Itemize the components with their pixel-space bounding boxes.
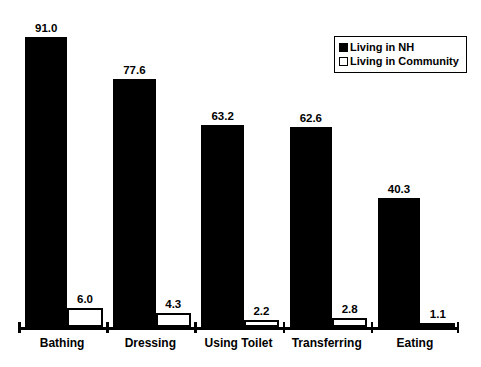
x-axis-category-labels: Bathing Dressing Using Toilet Transferri… — [18, 336, 459, 350]
x-axis-tick — [194, 322, 197, 333]
bar-value-label: 4.3 — [156, 298, 191, 311]
legend-swatch-hollow-icon — [339, 57, 348, 66]
bar-group-using-toilet: 63.2 2.2 — [194, 8, 282, 327]
bar-living-in-community — [67, 308, 102, 327]
bar-value-label: 6.0 — [67, 293, 102, 306]
bar-value-label: 62.6 — [290, 112, 332, 125]
x-axis-label-bathing: Bathing — [18, 336, 106, 350]
bar-living-in-nh — [25, 37, 67, 327]
legend-item-living-in-community: Living in Community — [339, 54, 462, 68]
x-axis-tick — [283, 322, 286, 333]
bar-group-dressing: 77.6 4.3 — [106, 8, 194, 327]
bar-value-label: 91.0 — [25, 22, 67, 35]
bar-living-in-nh — [290, 127, 332, 327]
bar-living-in-community — [156, 313, 191, 327]
bar-value-label: 2.2 — [244, 305, 279, 318]
bar-value-label: 40.3 — [378, 183, 420, 196]
bar-chart: 91.0 6.0 77.6 4.3 63.2 2.2 62.6 2.8 40.3 — [0, 0, 481, 367]
x-axis-label-dressing: Dressing — [106, 336, 194, 350]
bar-value-label: 1.1 — [420, 308, 455, 321]
x-axis-label-using-toilet: Using Toilet — [194, 336, 282, 350]
x-axis-label-eating: Eating — [371, 336, 459, 350]
bar-group-bathing: 91.0 6.0 — [18, 8, 106, 327]
legend: Living in NH Living in Community — [334, 36, 467, 73]
bar-value-label: 2.8 — [332, 303, 367, 316]
x-axis-tick — [457, 322, 460, 333]
bar-living-in-community — [332, 318, 367, 327]
bar-value-label: 77.6 — [113, 64, 155, 77]
x-axis-tick — [106, 322, 109, 333]
bar-living-in-nh — [201, 125, 243, 327]
bar-living-in-nh — [113, 79, 155, 327]
x-axis-line — [18, 327, 459, 330]
x-axis-tick — [18, 322, 21, 333]
bar-living-in-community — [244, 320, 279, 327]
bar-living-in-nh — [378, 198, 420, 327]
legend-label: Living in NH — [350, 41, 414, 53]
x-axis-label-transferring: Transferring — [283, 336, 371, 350]
bar-value-label: 63.2 — [201, 110, 243, 123]
legend-swatch-filled-icon — [339, 43, 348, 52]
legend-item-living-in-nh: Living in NH — [339, 40, 462, 54]
legend-label: Living in Community — [350, 55, 459, 67]
x-axis-tick — [371, 322, 374, 333]
